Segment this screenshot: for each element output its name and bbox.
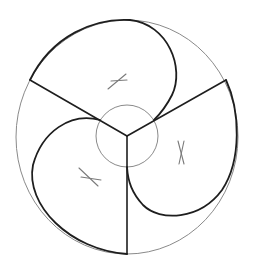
x-mark-right <box>178 141 184 164</box>
x-mark-top <box>108 74 127 89</box>
right-arc <box>127 80 237 216</box>
x-mark-left <box>79 168 101 186</box>
spoke-upper-left <box>30 80 127 136</box>
spoke-upper-right <box>127 80 226 136</box>
marks-group <box>79 74 184 186</box>
left-arc <box>32 118 127 254</box>
top-arc <box>30 20 176 120</box>
diagram-canvas <box>0 0 255 277</box>
